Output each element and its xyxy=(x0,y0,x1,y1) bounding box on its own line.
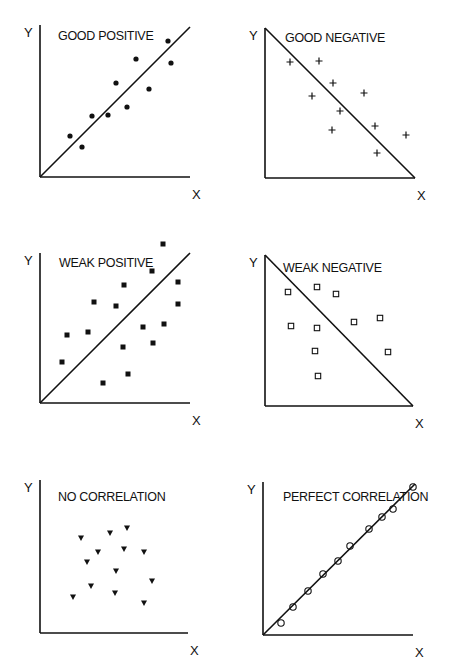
data-point xyxy=(141,550,147,556)
data-point xyxy=(121,345,126,350)
data-point xyxy=(78,536,84,542)
data-point xyxy=(146,86,151,91)
data-point xyxy=(351,319,356,324)
panel-good-positive: YXGOOD POSITIVE xyxy=(24,25,201,202)
data-point xyxy=(92,300,97,305)
panel-perfect-correlation: YXPERFECT CORRELATION xyxy=(247,482,429,660)
y-axis-label: Y xyxy=(24,480,33,495)
panel-title: GOOD POSITIVE xyxy=(58,29,153,43)
panel-weak-positive: YXWEAK POSITIVE xyxy=(24,242,201,429)
x-axis-label: X xyxy=(190,643,199,658)
data-point xyxy=(168,60,173,65)
panel-good-negative: YXGOOD NEGATIVE xyxy=(249,28,426,203)
data-point xyxy=(124,526,130,532)
x-axis-label: X xyxy=(415,416,424,431)
data-point xyxy=(314,284,319,289)
data-point xyxy=(107,531,113,537)
data-point xyxy=(316,58,323,65)
data-point xyxy=(70,595,76,601)
data-point xyxy=(122,283,127,288)
data-point xyxy=(278,620,284,626)
data-point xyxy=(330,80,337,87)
data-point xyxy=(88,584,94,590)
correlation-figure: YXGOOD POSITIVEYXGOOD NEGATIVEYXWEAK POS… xyxy=(0,0,450,670)
x-axis-label: X xyxy=(415,645,424,660)
data-point xyxy=(315,373,320,378)
data-point xyxy=(377,315,382,320)
y-axis-label: Y xyxy=(247,482,256,497)
data-point xyxy=(385,349,390,354)
panel-no-correlation: YXNO CORRELATION xyxy=(24,480,199,658)
data-point xyxy=(165,38,170,43)
data-point xyxy=(151,341,156,346)
data-point xyxy=(60,360,65,365)
data-point xyxy=(149,579,155,585)
data-point xyxy=(312,348,317,353)
data-point xyxy=(333,291,338,296)
data-point xyxy=(285,289,290,294)
data-point xyxy=(329,127,336,134)
trend-line xyxy=(265,28,415,178)
y-axis-label: Y xyxy=(24,253,33,268)
data-point xyxy=(112,591,118,597)
data-point xyxy=(113,569,119,575)
data-point xyxy=(89,113,94,118)
data-point xyxy=(288,323,293,328)
data-point xyxy=(101,381,106,386)
data-point xyxy=(113,80,118,85)
data-point xyxy=(314,325,319,330)
panel-title: GOOD NEGATIVE xyxy=(285,31,385,45)
data-point xyxy=(86,330,91,335)
data-point xyxy=(141,601,147,607)
x-axis-label: X xyxy=(192,187,201,202)
data-point xyxy=(374,150,381,157)
data-point xyxy=(150,269,155,274)
data-point xyxy=(162,322,167,327)
data-point xyxy=(141,325,146,330)
data-point xyxy=(121,547,127,553)
data-point xyxy=(337,108,344,115)
trend-line xyxy=(40,27,190,177)
data-point xyxy=(65,333,70,338)
data-point xyxy=(133,56,138,61)
panel-weak-negative: YXWEAK NEGATIVE xyxy=(249,255,424,431)
y-axis-label: Y xyxy=(249,28,258,43)
data-point xyxy=(176,302,181,307)
y-axis-label: Y xyxy=(24,25,33,40)
panel-title: WEAK NEGATIVE xyxy=(283,261,382,275)
data-point xyxy=(95,550,101,556)
panel-title: NO CORRELATION xyxy=(58,490,166,504)
data-point xyxy=(161,242,166,247)
panel-title: WEAK POSITIVE xyxy=(59,256,153,270)
data-point xyxy=(361,90,368,97)
data-point xyxy=(124,104,129,109)
x-axis-label: X xyxy=(192,413,201,428)
data-point xyxy=(287,59,294,66)
data-point xyxy=(114,304,119,309)
data-point xyxy=(126,372,131,377)
trend-line xyxy=(263,484,415,635)
data-point xyxy=(309,93,316,100)
data-point xyxy=(105,112,110,117)
trend-line xyxy=(265,255,413,406)
x-axis-label: X xyxy=(417,188,426,203)
trend-line xyxy=(40,253,190,403)
panel-title: PERFECT CORRELATION xyxy=(283,490,429,504)
y-axis-label: Y xyxy=(249,255,258,270)
data-point xyxy=(176,280,181,285)
data-point xyxy=(79,144,84,149)
data-point xyxy=(67,133,72,138)
data-point xyxy=(84,560,90,566)
data-point xyxy=(403,132,410,139)
data-point xyxy=(372,123,379,130)
